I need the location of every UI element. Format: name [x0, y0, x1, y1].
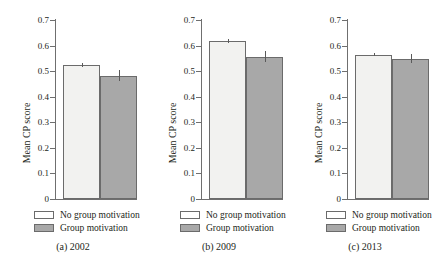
y-axis-tick-label: 0.4	[184, 92, 195, 101]
y-axis-title-b: Mean CP score	[167, 103, 178, 164]
y-axis-title-c: Mean CP score	[313, 103, 324, 164]
y-axis-tick-label: 0.1	[330, 169, 341, 178]
y-axis-tick-mark	[196, 20, 201, 21]
y-axis-tick-mark	[196, 46, 201, 47]
y-axis-tick-mark	[342, 148, 347, 149]
legend-c: No group motivation Group motivation	[326, 209, 438, 235]
panel-a: Mean CP score 00.10.20.30.40.50.60.7 No …	[0, 0, 146, 266]
bar-no-group-motivation	[355, 55, 392, 199]
legend-swatch-dark-icon	[326, 224, 346, 232]
legend-label-no-group-motivation: No group motivation	[60, 210, 140, 220]
y-axis-tick-label: 0.5	[330, 67, 341, 76]
legend-label-group-motivation: Group motivation	[352, 223, 420, 233]
y-axis-tick-mark	[196, 199, 201, 200]
y-axis-tick-label: 0.6	[38, 41, 49, 50]
panel-caption-a: (a) 2002	[0, 241, 146, 252]
y-axis-tick-mark	[342, 97, 347, 98]
y-axis-tick-label: 0.1	[38, 169, 49, 178]
error-bar	[411, 54, 412, 63]
legend-swatch-dark-icon	[34, 224, 54, 232]
y-axis-tick-label: 0.1	[184, 169, 195, 178]
y-axis-tick-label: 0.3	[330, 118, 341, 127]
y-axis-tick-label: 0.4	[330, 92, 341, 101]
legend-swatch-light-icon	[34, 211, 54, 219]
y-axis-title-a: Mean CP score	[21, 103, 32, 164]
y-axis-tick-mark	[50, 46, 55, 47]
legend-item-no-group-motivation-c: No group motivation	[326, 209, 438, 220]
y-axis-tick-mark	[50, 148, 55, 149]
y-axis-tick-mark	[196, 122, 201, 123]
y-axis-tick-label: 0.3	[38, 118, 49, 127]
bar-group-motivation	[100, 76, 137, 200]
panel-caption-b: (b) 2009	[146, 241, 292, 252]
legend-label-group-motivation: Group motivation	[206, 223, 274, 233]
legend-item-group-motivation-a: Group motivation	[34, 222, 146, 233]
legend-a: No group motivation Group motivation	[34, 209, 146, 235]
y-axis-tick-mark	[196, 173, 201, 174]
y-axis-tick-label: 0	[191, 195, 196, 204]
bar-no-group-motivation	[209, 41, 246, 199]
legend-swatch-light-icon	[326, 211, 346, 219]
error-bar	[265, 51, 266, 62]
y-axis-tick-label: 0.7	[38, 16, 49, 25]
y-axis-tick-mark	[196, 97, 201, 98]
y-axis-tick-mark	[342, 46, 347, 47]
y-axis-tick-label: 0.4	[38, 92, 49, 101]
y-axis-tick-label: 0	[337, 195, 342, 204]
y-axis-tick-mark	[342, 71, 347, 72]
error-bar	[374, 53, 375, 56]
y-axis-tick-label: 0.2	[38, 143, 49, 152]
bar-no-group-motivation	[63, 65, 100, 199]
panel-c: Mean CP score 00.10.20.30.40.50.60.7 No …	[292, 0, 438, 266]
y-axis-tick-mark	[50, 122, 55, 123]
legend-swatch-light-icon	[180, 211, 200, 219]
y-axis-tick-mark	[50, 20, 55, 21]
y-axis-tick-label: 0.2	[184, 143, 195, 152]
legend-swatch-dark-icon	[180, 224, 200, 232]
y-axis-tick-label: 0.5	[38, 67, 49, 76]
y-axis-tick-label: 0.6	[330, 41, 341, 50]
legend-item-group-motivation-c: Group motivation	[326, 222, 438, 233]
y-axis-tick-mark	[50, 199, 55, 200]
y-axis-tick-label: 0.2	[330, 143, 341, 152]
y-axis-tick-mark	[342, 173, 347, 174]
legend-label-group-motivation: Group motivation	[60, 223, 128, 233]
y-axis-tick-mark	[50, 173, 55, 174]
y-axis-tick-label: 0	[45, 195, 50, 204]
y-axis-tick-label: 0.7	[330, 16, 341, 25]
legend-b: No group motivation Group motivation	[180, 209, 292, 235]
y-axis-tick-label: 0.3	[184, 118, 195, 127]
error-bar	[119, 70, 120, 81]
plot-area-b	[202, 20, 282, 199]
plot-area-c	[348, 20, 428, 199]
legend-item-no-group-motivation-b: No group motivation	[180, 209, 292, 220]
bar-group-motivation	[392, 59, 429, 199]
y-axis-tick-label: 0.7	[184, 16, 195, 25]
plot-area-a	[56, 20, 136, 199]
y-axis-tick-label: 0.6	[184, 41, 195, 50]
y-axis-tick-mark	[50, 71, 55, 72]
y-axis-tick-mark	[342, 20, 347, 21]
panel-caption-c: (c) 2013	[292, 241, 438, 252]
error-bar	[82, 63, 83, 67]
y-axis-tick-mark	[196, 148, 201, 149]
x-axis-line-b	[201, 199, 283, 200]
y-axis-tick-mark	[196, 71, 201, 72]
error-bar	[228, 39, 229, 43]
legend-label-no-group-motivation: No group motivation	[206, 210, 286, 220]
y-axis-tick-mark	[342, 199, 347, 200]
bar-group-motivation	[246, 57, 283, 199]
x-axis-line-a	[55, 199, 137, 200]
x-axis-line-c	[347, 199, 429, 200]
y-axis-tick-label: 0.5	[184, 67, 195, 76]
legend-item-group-motivation-b: Group motivation	[180, 222, 292, 233]
legend-item-no-group-motivation-a: No group motivation	[34, 209, 146, 220]
y-axis-tick-mark	[342, 122, 347, 123]
figure-three-panel-bar-chart: Mean CP score 00.10.20.30.40.50.60.7 No …	[0, 0, 438, 266]
legend-label-no-group-motivation: No group motivation	[352, 210, 432, 220]
y-axis-tick-mark	[50, 97, 55, 98]
panel-b: Mean CP score 00.10.20.30.40.50.60.7 No …	[146, 0, 292, 266]
